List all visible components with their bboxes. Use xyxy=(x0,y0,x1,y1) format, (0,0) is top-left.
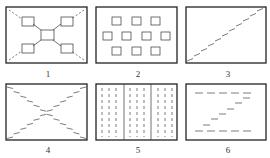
dash-segment xyxy=(236,24,242,27)
panel-3-dashed-diagonal xyxy=(187,9,263,62)
dash-segment xyxy=(60,101,66,103)
panel-6-label: 6 xyxy=(226,145,231,155)
small-square xyxy=(112,47,121,55)
panel-3-label: 3 xyxy=(226,69,231,79)
dash-segment xyxy=(73,132,79,134)
diagram-canvas: 1 2 3 4 5 6 xyxy=(0,0,270,158)
dash-segment xyxy=(34,119,40,121)
dash-segment xyxy=(27,123,33,125)
panel-2-frame xyxy=(96,7,177,63)
dash-segment xyxy=(250,14,256,17)
dash-segment xyxy=(14,132,20,134)
small-square xyxy=(151,47,160,55)
panel-4-dashed-x xyxy=(7,87,86,139)
panel-1: 1 xyxy=(6,7,87,79)
small-square xyxy=(112,17,121,25)
small-square xyxy=(151,17,160,25)
dash-segment xyxy=(67,96,73,98)
panel-1-frame xyxy=(6,7,87,63)
dash-segment xyxy=(201,49,207,52)
dash-segment xyxy=(47,114,53,116)
panel-6: 6 xyxy=(186,84,266,155)
dash-segment xyxy=(194,54,200,57)
small-square xyxy=(161,32,170,40)
dash-segment xyxy=(67,128,73,130)
dash-segment xyxy=(20,128,26,130)
dash-segment xyxy=(208,44,214,47)
panel-4: 4 xyxy=(6,84,87,155)
dash-segment xyxy=(257,9,263,12)
small-square xyxy=(132,47,141,55)
dash-segment xyxy=(53,119,59,121)
panel-5-dashed-columns xyxy=(102,88,172,137)
dash-segment xyxy=(80,137,86,139)
box-center xyxy=(41,30,54,40)
panel-2-label: 2 xyxy=(136,69,141,79)
dash-segment xyxy=(14,92,20,94)
dash-segment xyxy=(7,87,13,89)
dash-segment xyxy=(34,105,40,107)
box-top-right xyxy=(61,17,73,26)
dash-segment xyxy=(80,87,86,89)
panel-5: 5 xyxy=(96,84,177,155)
panel-5-label: 5 xyxy=(136,145,141,155)
dash-segment xyxy=(229,29,235,32)
panel-6-frame xyxy=(186,84,266,140)
dash-segment xyxy=(222,34,228,37)
dash-segment xyxy=(187,59,193,62)
dash-segment xyxy=(73,92,79,94)
dash-segment xyxy=(53,105,59,107)
dash-segment xyxy=(243,19,249,22)
panel-6-dashes xyxy=(195,93,251,131)
dash-segment xyxy=(47,110,53,112)
dash-segment xyxy=(215,39,221,42)
panel-2: 2 xyxy=(96,7,177,79)
dash-segment xyxy=(40,114,46,116)
panel-4-label: 4 xyxy=(46,145,51,155)
box-bottom-right xyxy=(61,44,73,53)
panel-2-squares xyxy=(103,17,170,55)
box-bottom-left xyxy=(22,44,34,53)
panel-3: 3 xyxy=(186,7,266,79)
dash-segment xyxy=(27,101,33,103)
small-square xyxy=(142,32,151,40)
dash-segment xyxy=(40,110,46,112)
dash-segment xyxy=(20,96,26,98)
small-square xyxy=(132,17,141,25)
box-top-left xyxy=(22,17,34,26)
small-square xyxy=(122,32,131,40)
panel-1-label: 1 xyxy=(46,69,51,79)
small-square xyxy=(103,32,112,40)
dash-segment xyxy=(7,137,13,139)
dash-segment xyxy=(60,123,66,125)
